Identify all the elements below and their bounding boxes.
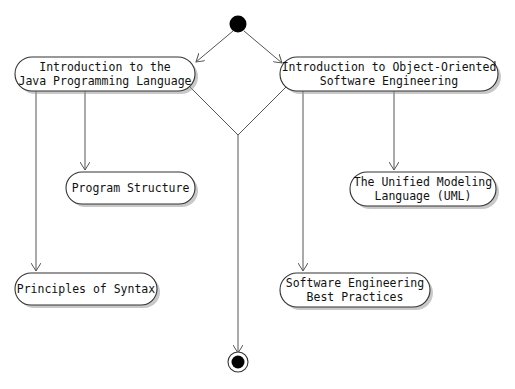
activity-oose-intro-line1: Introduction to Object-Oriented [282,60,497,74]
activity-java-intro-line2: Java Programming Language [18,74,191,88]
activity-se-best-practices-line1: Software Engineering [286,276,424,290]
end-node [228,352,248,372]
activity-se-best-practices-line2: Best Practices [307,290,404,304]
edge-start-to-java-intro [196,31,233,62]
activity-program-structure-line1: Program Structure [72,181,190,195]
activity-uml-line2: Language (UML) [375,189,472,203]
activity-oose-intro[interactable]: Introduction to Object-Oriented Software… [280,57,501,94]
activity-oose-intro-line2: Software Engineering [320,74,458,88]
activity-principles-syntax[interactable]: Principles of Syntax [15,273,160,308]
activity-uml[interactable]: The Unified Modeling Language (UML) [350,172,499,209]
activity-se-best-practices[interactable]: Software Engineering Best Practices [280,273,433,310]
edge-oose-intro-to-merge [238,87,286,135]
edge-java-intro-to-merge [190,87,238,135]
activity-principles-syntax-line1: Principles of Syntax [17,282,156,296]
start-node [230,16,247,33]
activity-uml-line1: The Unified Modeling [354,175,492,189]
activity-program-structure[interactable]: Program Structure [66,172,198,207]
edge-start-to-oose-intro [244,31,282,63]
activity-diagram: Introduction to the Java Programming Lan… [0,0,515,389]
activity-java-intro[interactable]: Introduction to the Java Programming Lan… [15,57,198,94]
activity-java-intro-line1: Introduction to the [39,60,171,74]
